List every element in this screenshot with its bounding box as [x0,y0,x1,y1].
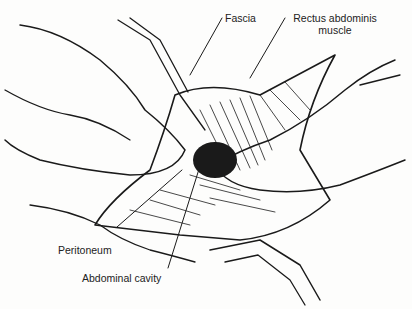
label-rectus-abdominis: Rectus abdominis muscle [290,12,380,36]
label-peritoneum: Peritoneum [58,244,112,256]
surgical-drawing [0,0,412,309]
label-abdominal-cavity: Abdominal cavity [82,272,161,284]
label-rectus-line1: Rectus abdominis [290,12,380,24]
label-fascia: Fascia [225,12,256,24]
label-rectus-line2: muscle [290,24,380,36]
anatomy-illustration: Fascia Rectus abdominis muscle Peritoneu… [0,0,412,309]
